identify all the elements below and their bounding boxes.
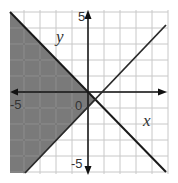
x-axis-arrow-right-icon bbox=[158, 89, 167, 96]
y-axis-label: y bbox=[54, 27, 64, 46]
x-min-tick-label: -5 bbox=[10, 97, 22, 112]
y-min-tick-label: -5 bbox=[71, 156, 83, 171]
y-max-tick-label: 5 bbox=[78, 9, 85, 24]
origin-label: 0 bbox=[75, 98, 82, 113]
y-axis-arrow-down-icon bbox=[85, 166, 92, 175]
inequality-graph: 5 -5 -5 0 y x bbox=[0, 0, 178, 183]
x-axis-label: x bbox=[142, 111, 151, 130]
y-axis-arrow-up-icon bbox=[85, 10, 92, 19]
